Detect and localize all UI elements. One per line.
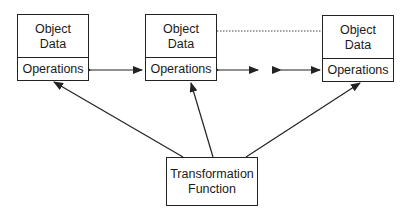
object-data-label-2: Data: [345, 38, 371, 53]
object-box-1: Object Data Operations: [17, 14, 89, 81]
object-data-section: Object Data: [18, 15, 88, 58]
object-data-section: Object Data: [323, 16, 393, 59]
object-box-3: Object Data Operations: [322, 15, 394, 82]
operations-section: Operations: [323, 59, 393, 81]
object-data-label-1: Object: [340, 23, 376, 38]
object-data-label-2: Data: [40, 37, 66, 52]
object-data-section: Object Data: [146, 15, 216, 58]
object-data-label-1: Object: [163, 22, 199, 37]
arrow-tf-obj2: [191, 83, 213, 157]
arrow-tf-obj1: [54, 82, 183, 157]
operations-section: Operations: [146, 58, 216, 80]
transformation-label-1: Transformation: [170, 167, 254, 182]
arrow-tf-obj3: [246, 83, 360, 157]
object-box-2: Object Data Operations: [145, 14, 217, 81]
operations-section: Operations: [18, 58, 88, 80]
object-data-label-2: Data: [168, 37, 194, 52]
object-data-label-1: Object: [35, 22, 71, 37]
transformation-function-box: Transformation Function: [166, 157, 258, 206]
transformation-label-2: Function: [188, 182, 236, 197]
